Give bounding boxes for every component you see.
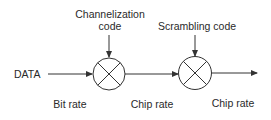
chip-rate-output-label: Chip rate xyxy=(211,97,255,109)
channelization-line2: code xyxy=(72,20,148,32)
multiplier-1-icon xyxy=(93,58,125,90)
multiplier-2-icon xyxy=(179,57,212,90)
chip-rate-middle-label: Chip rate xyxy=(130,98,174,110)
channelization-code-label: Channelization code xyxy=(72,8,148,32)
data-input-label: DATA xyxy=(14,68,44,80)
scrambling-code-label: Scrambling code xyxy=(155,20,239,32)
channelization-line1: Channelization xyxy=(72,8,148,20)
bit-rate-label: Bit rate xyxy=(50,98,90,110)
